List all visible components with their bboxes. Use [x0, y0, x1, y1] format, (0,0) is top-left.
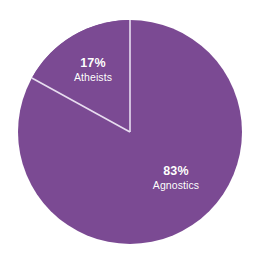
pie-chart: 17% Atheists 83% Agnostics	[0, 0, 260, 263]
pie-chart-graphic	[0, 0, 260, 263]
